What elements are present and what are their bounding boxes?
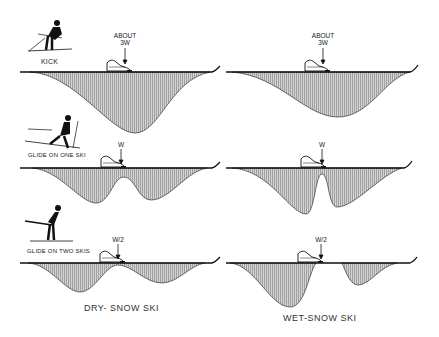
- load-label-dry-glide-two: W/2: [110, 236, 126, 243]
- wet-glide-two-pressure-area-1: [230, 263, 316, 307]
- wet-glide-one-pressure-area: [232, 168, 402, 214]
- wet-kick-pressure-area: [232, 72, 410, 117]
- skier-kick-icon: [28, 20, 72, 51]
- load-label-wet-kick: ABOUT3W: [311, 32, 335, 46]
- dry-glide-one-pressure-area: [32, 168, 207, 203]
- skier-glide-two-skis-icon: [25, 205, 73, 241]
- row-label-glide-one-ski: GLIDE ON ONE SKI: [28, 152, 86, 158]
- load-label-wet-glide-two: W/2: [313, 236, 329, 243]
- dry-glide-two-pressure-area: [28, 263, 205, 292]
- boot-icon: [100, 251, 125, 262]
- boot-icon: [298, 251, 323, 262]
- ski-pressure-diagram: [0, 0, 439, 337]
- boot-icon: [107, 60, 132, 71]
- column-caption-wet: WET-SNOW SKI: [283, 313, 357, 323]
- load-label-dry-kick: ABOUT3W: [113, 32, 137, 46]
- boot-icon: [305, 60, 330, 71]
- skier-glide-one-ski-icon: [25, 115, 80, 148]
- load-label-wet-glide-one: W: [316, 141, 328, 148]
- wet-glide-two-pressure-area-2: [342, 263, 397, 285]
- row-label-kick: KICK: [41, 58, 58, 65]
- load-label-dry-glide-one: W: [115, 141, 127, 148]
- row-label-glide-two-skis: GLIDE ON TWO SKIS: [27, 248, 90, 254]
- column-caption-dry: DRY- SNOW SKI: [84, 303, 159, 313]
- dry-kick-pressure-area: [30, 72, 210, 133]
